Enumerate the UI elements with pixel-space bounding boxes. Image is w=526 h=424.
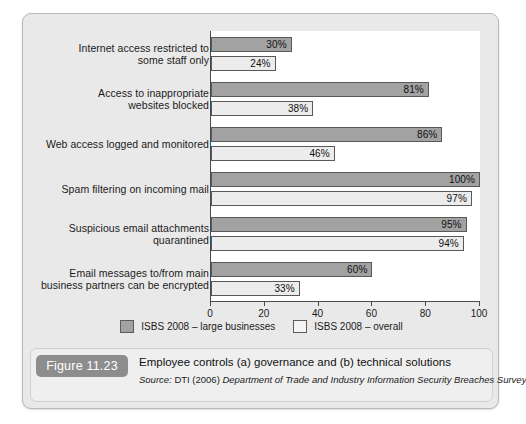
bar-large: 30% (211, 37, 292, 52)
bar-value-label: 95% (441, 219, 465, 230)
legend-swatch-large (120, 320, 134, 333)
x-tick-label: 100 (471, 308, 488, 319)
plot-area: 30%24%81%38%86%46%100%97%95%94%60%33% (210, 31, 480, 301)
bar-chart: Internet access restricted to some staff… (23, 14, 500, 336)
category-label: Spam filtering on incoming mail (0, 183, 209, 196)
bar-large: 100% (211, 172, 480, 187)
bar-overall: 97% (211, 191, 472, 206)
bar-overall: 24% (211, 56, 276, 71)
x-tick (210, 301, 211, 306)
category-label: Internet access restricted to some staff… (0, 42, 209, 67)
category-label: Access to inappropriate websites blocked (0, 87, 209, 112)
legend-item: ISBS 2008 – overall (293, 320, 402, 333)
bar-value-label: 97% (447, 193, 471, 204)
bar-large: 81% (211, 82, 429, 97)
x-tick (264, 301, 265, 306)
source-org: DTI (2006) (172, 374, 223, 385)
figure-caption-title: Employee controls (a) governance and (b)… (139, 356, 451, 368)
x-tick (371, 301, 372, 306)
bar-overall: 94% (211, 236, 464, 251)
x-tick-label: 20 (258, 308, 269, 319)
legend-swatch-overall (293, 320, 307, 333)
category-label: Web access logged and monitored (0, 138, 209, 151)
bar-value-label: 81% (404, 84, 428, 95)
bar-large: 60% (211, 262, 372, 277)
bar-large: 86% (211, 127, 442, 142)
bar-value-label: 94% (439, 238, 463, 249)
legend-label: ISBS 2008 – large businesses (141, 321, 275, 332)
chart-legend: ISBS 2008 – large businessesISBS 2008 – … (23, 320, 500, 333)
bar-value-label: 30% (266, 39, 290, 50)
bar-overall: 38% (211, 101, 313, 116)
figure-number-badge: Figure 11.23 (36, 355, 128, 377)
bar-value-label: 33% (274, 283, 298, 294)
source-prefix: Source: (139, 374, 172, 385)
caption-band: Figure 11.23 Employee controls (a) gover… (30, 348, 493, 402)
category-label: Suspicious email attachments quarantined (0, 222, 209, 247)
bar-value-label: 46% (309, 148, 333, 159)
bar-value-label: 24% (250, 58, 274, 69)
bar-overall: 46% (211, 146, 335, 161)
bar-large: 95% (211, 217, 467, 232)
figure-source-line: Source: DTI (2006) Department of Trade a… (139, 374, 526, 385)
x-tick (318, 301, 319, 306)
bar-value-label: 38% (288, 103, 312, 114)
source-title: Department of Trade and Industry Informa… (222, 374, 526, 385)
x-tick (425, 301, 426, 306)
x-tick (479, 301, 480, 306)
bar-value-label: 60% (347, 264, 371, 275)
bar-value-label: 86% (417, 129, 441, 140)
legend-label: ISBS 2008 – overall (314, 321, 402, 332)
x-tick-label: 60 (366, 308, 377, 319)
bar-value-label: 100% (449, 174, 479, 185)
category-label: Email messages to/from main business par… (0, 267, 209, 292)
bar-overall: 33% (211, 281, 300, 296)
x-tick-label: 40 (312, 308, 323, 319)
x-tick-label: 0 (207, 308, 213, 319)
x-tick-label: 80 (420, 308, 431, 319)
figure-card: Internet access restricted to some staff… (22, 13, 499, 409)
legend-item: ISBS 2008 – large businesses (120, 320, 275, 333)
